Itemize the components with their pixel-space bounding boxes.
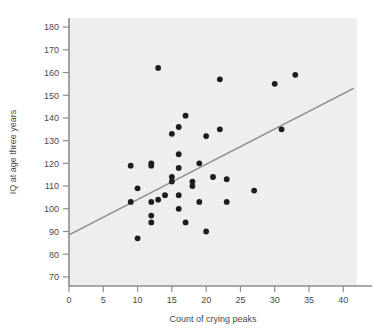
y-tick-label: 80 [49,250,59,260]
y-tick-label: 180 [44,22,59,32]
data-point [217,76,223,82]
data-point [135,185,141,191]
scatter-plot-figure: 708090100110120130140150160170180 051015… [0,0,387,335]
data-point [176,151,182,157]
data-point [148,220,154,226]
data-point [176,165,182,171]
plot-area-background [69,18,357,286]
y-tick-label: 110 [45,181,59,191]
x-tick-label: 40 [338,295,348,305]
data-point [196,199,202,205]
data-point [128,163,134,169]
y-tick-label: 130 [44,136,59,146]
y-tick-label: 140 [44,113,59,123]
data-point [190,183,196,189]
data-point [279,126,285,132]
y-tick-label: 170 [44,45,59,55]
data-point [176,206,182,212]
x-tick-label: 5 [101,295,106,305]
data-point [203,229,209,235]
data-point [128,199,134,205]
y-tick-label: 150 [44,91,59,101]
chart-canvas: 708090100110120130140150160170180 051015… [0,0,387,335]
data-point [251,188,257,194]
data-point [148,163,154,169]
x-tick-label: 20 [201,295,211,305]
data-point [176,124,182,130]
data-point [169,179,175,185]
y-axis-label: IQ at age three years [8,109,18,194]
y-tick-label: 160 [44,68,59,78]
data-point [169,131,175,137]
x-axis-label: Count of crying peaks [169,314,257,324]
data-point [183,220,189,226]
data-point [135,235,141,241]
data-point [176,192,182,198]
y-tick-label: 90 [49,227,59,237]
data-point [155,197,161,203]
x-tick-label: 30 [270,295,280,305]
y-tick-label: 120 [44,159,59,169]
data-point [217,126,223,132]
data-point [224,199,230,205]
x-tick-label: 10 [133,295,143,305]
data-point [292,72,298,78]
data-point [224,176,230,182]
x-tick-label: 15 [167,295,177,305]
data-point [210,174,216,180]
data-point [183,113,189,119]
y-tick-label: 70 [49,272,59,282]
data-point [155,65,161,71]
y-tick-label: 100 [44,204,59,214]
data-point [203,133,209,139]
x-tick-label: 25 [235,295,245,305]
data-point [196,160,202,166]
x-tick-label: 0 [66,295,71,305]
data-point [148,213,154,219]
data-point [162,192,168,198]
x-tick-label: 35 [304,295,314,305]
data-point [272,81,278,87]
data-point [148,199,154,205]
